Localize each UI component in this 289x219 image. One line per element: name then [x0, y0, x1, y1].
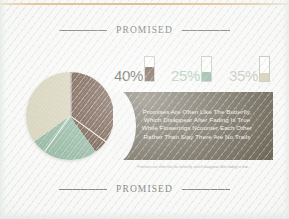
edge-fade-left: [0, 0, 6, 219]
quote-line-4: Rather Than Stay There Are No Trails: [127, 133, 267, 141]
stat-gauges: 40% 25% 35%: [114, 52, 284, 82]
stat-item-35: 35%: [229, 56, 270, 83]
stat-gauge-fill-35: [260, 73, 269, 81]
stat-percent-label-40: 40%: [114, 68, 143, 83]
header-title: PROMISED: [116, 25, 173, 35]
stat-gauge-fill-25: [202, 72, 211, 81]
quote-text: Promises Are Often Like The Butterfly, W…: [127, 108, 267, 141]
top-gold-rule: [0, 3, 289, 5]
infographic-poster: PROMISED 40% 25%: [0, 0, 289, 219]
stat-gauge-40: [144, 56, 155, 82]
pie-slice-divider-1: [70, 72, 71, 116]
quote-line-3: While Flowerings Ncounter Each Other: [127, 124, 267, 132]
quote-line-1: Promises Are Often Like The Butterfly,: [127, 108, 267, 116]
quote-line-2: Which Disappear After Fading Is True: [127, 116, 267, 124]
poster-content: PROMISED 40% 25%: [0, 0, 289, 219]
quote-panel: Promises Are Often Like The Butterfly, W…: [113, 92, 273, 160]
caption-text: Promises are often like the butterfly, w…: [113, 165, 273, 170]
stat-percent-label-35: 35%: [229, 68, 258, 83]
stat-item-25: 25%: [171, 56, 212, 83]
header-rule: PROMISED: [0, 25, 289, 35]
footer-rule: PROMISED: [0, 184, 289, 194]
footer-title: PROMISED: [116, 184, 173, 194]
stat-gauge-fill-40: [145, 67, 154, 81]
header-rule-line-left: [59, 30, 107, 31]
stat-percent-label-25: 25%: [171, 68, 200, 83]
pie-chart: [26, 72, 114, 160]
edge-fade-bottom: [0, 211, 289, 219]
stat-gauge-35: [259, 56, 270, 82]
footer-rule-line-right: [182, 189, 230, 190]
stat-gauge-25: [201, 56, 212, 82]
footer-rule-line-left: [59, 189, 107, 190]
header-rule-line-right: [182, 30, 230, 31]
stat-item-40: 40%: [114, 56, 155, 83]
edge-fade-right: [283, 0, 289, 219]
